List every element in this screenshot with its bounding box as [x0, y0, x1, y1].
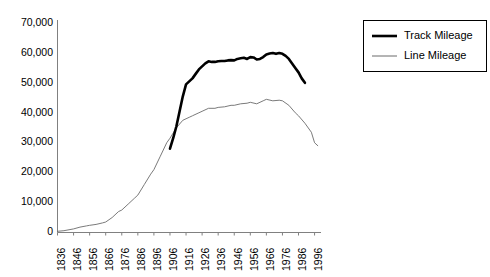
- y-tick-label: 70,000: [21, 16, 53, 28]
- x-tick-label: 1976: [280, 247, 292, 271]
- chart-page: 70,00060,00050,00040,00030,00020,00010,0…: [0, 0, 490, 277]
- x-tick-label: 1886: [135, 247, 147, 271]
- x-tick-label: 1846: [71, 247, 83, 271]
- legend-label-line-mileage: Line Mileage: [404, 49, 466, 61]
- series-track-mileage: [170, 53, 305, 149]
- axis-lines: [58, 20, 322, 233]
- x-tick-label: 1956: [248, 247, 260, 271]
- x-tick-label: 1866: [103, 247, 115, 271]
- x-tick-label: 1966: [264, 247, 276, 271]
- x-tick-label: 1936: [215, 247, 227, 271]
- x-tick-label: 1876: [119, 247, 131, 271]
- x-tick-label: 1836: [55, 247, 67, 271]
- x-tick-label: 1906: [167, 247, 179, 271]
- x-tick-label: 1926: [199, 247, 211, 271]
- plot-series: [58, 53, 318, 231]
- y-tick-label: 20,000: [21, 165, 53, 177]
- x-axis-tick-labels: 1836184618561866187618861896190619161926…: [55, 247, 324, 271]
- x-tick-label: 1996: [312, 247, 324, 271]
- legend-label-track-mileage: Track Mileage: [404, 29, 473, 41]
- x-tick-label: 1916: [183, 247, 195, 271]
- y-tick-label: 0: [47, 225, 53, 237]
- x-tick-label: 1856: [87, 247, 99, 271]
- y-tick-label: 10,000: [21, 195, 53, 207]
- y-axis-tick-labels: 70,00060,00050,00040,00030,00020,00010,0…: [21, 16, 53, 238]
- x-tick-label: 1986: [296, 247, 308, 271]
- legend-box: [364, 21, 487, 72]
- y-tick-label: 60,000: [21, 46, 53, 58]
- railway-mileage-chart: 70,00060,00050,00040,00030,00020,00010,0…: [0, 0, 490, 277]
- legend: Track Mileage Line Mileage: [364, 21, 487, 72]
- x-tick-label: 1896: [151, 247, 163, 271]
- y-tick-label: 30,000: [21, 135, 53, 147]
- series-line-mileage: [58, 99, 318, 231]
- y-tick-label: 50,000: [21, 76, 53, 88]
- x-tick-label: 1946: [232, 247, 244, 271]
- y-tick-label: 40,000: [21, 106, 53, 118]
